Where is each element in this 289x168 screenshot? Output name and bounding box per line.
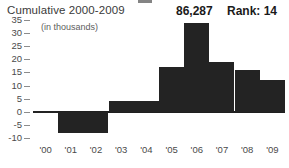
y-axis-tick-label: -5 [2, 120, 22, 129]
y-axis-tick-label: 10 [2, 81, 22, 90]
y-axis-tick-label: 15 [2, 67, 22, 76]
plot-area [33, 20, 285, 138]
y-axis-tick-label: 35 [2, 15, 22, 24]
y-axis-tick-mark [24, 125, 30, 126]
x-axis-tick-label: '08 [234, 144, 260, 155]
bar [83, 112, 108, 133]
chart-widget: Cumulative 2000-2009 86,287 Rank: 14 (in… [0, 0, 289, 168]
x-axis-tick-label: '00 [33, 144, 59, 155]
y-axis-tick-mark [24, 72, 30, 73]
bar [134, 101, 159, 111]
bar [260, 80, 285, 111]
x-axis-tick-label: '02 [83, 144, 109, 155]
y-axis-tick-label: 5 [2, 94, 22, 103]
cumulative-value: 86,287 [176, 4, 213, 18]
y-axis-tick-mark [24, 20, 30, 21]
x-axis-tick-label: '01 [58, 144, 84, 155]
x-axis-tick-label: '05 [159, 144, 185, 155]
bar [209, 62, 234, 112]
x-axis-tick-label: '09 [259, 144, 285, 155]
y-axis-tick-mark [24, 99, 30, 100]
page-title: Cumulative 2000-2009 [7, 4, 125, 16]
bar [184, 23, 209, 112]
y-axis-tick-mark [24, 138, 30, 139]
bar [58, 112, 83, 133]
y-axis-tick-label: 0 [2, 107, 22, 116]
y-axis-tick-mark [24, 112, 30, 113]
y-axis-tick-label: -10 [2, 133, 22, 142]
x-axis-tick-label: '04 [133, 144, 159, 155]
y-axis-tick-label: 25 [2, 41, 22, 50]
x-axis-tick-label: '07 [209, 144, 235, 155]
y-axis-tick-label: 20 [2, 54, 22, 63]
y-axis-tick-mark [24, 86, 30, 87]
x-axis-tick-label: '03 [108, 144, 134, 155]
top-edge-artifact [138, 0, 152, 3]
bar [159, 67, 184, 112]
y-axis-tick-label: 30 [2, 28, 22, 37]
bar [33, 111, 58, 113]
y-axis-tick-mark [24, 59, 30, 60]
y-axis-tick-mark [24, 33, 30, 34]
bar-chart: (in thousands) 35302520151050-5-10 '00'0… [0, 20, 289, 168]
bar [109, 101, 134, 111]
chart-header: Cumulative 2000-2009 86,287 Rank: 14 [0, 4, 289, 20]
rank-badge: Rank: 14 [227, 4, 277, 18]
bar [235, 70, 260, 112]
y-axis-tick-mark [24, 46, 30, 47]
x-axis-tick-label: '06 [184, 144, 210, 155]
